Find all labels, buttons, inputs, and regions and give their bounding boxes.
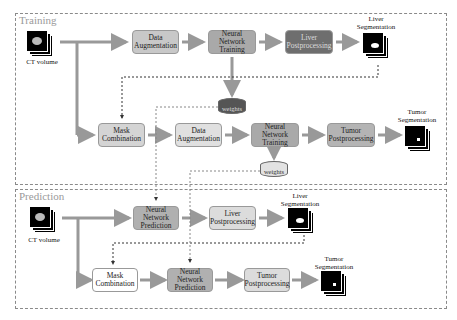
tumor-postprocessing-box-pred: TumorPostprocessing bbox=[244, 268, 290, 292]
nn-prediction-box: Neural NetworkPrediction bbox=[133, 206, 179, 230]
nn-prediction-box-2: Neural NetworkPrediction bbox=[167, 268, 213, 292]
tumor-segmentation-icon bbox=[404, 125, 430, 151]
weights-cylinder-1: weights bbox=[218, 98, 246, 114]
liver-segmentation-label-pred: LiverSegmentation bbox=[276, 192, 324, 208]
liver-segmentation-icon-pred bbox=[287, 207, 313, 233]
data-augmentation-box: DataAugmentation bbox=[132, 30, 179, 54]
ct-volume-label-pred: CT volume bbox=[24, 236, 64, 244]
liver-postprocessing-box-pred: LiverPostprocessing bbox=[209, 206, 256, 230]
ct-volume-icon-pred bbox=[29, 206, 55, 232]
liver-segmentation-label: LiverSegmentation bbox=[352, 15, 400, 31]
tumor-postprocessing-box: TumorPostprocessing bbox=[327, 123, 375, 147]
ct-volume-label: CT volume bbox=[22, 58, 62, 66]
nn-training-box-2: Neural NetworkTraining bbox=[251, 123, 299, 147]
nn-training-box: Neural NetworkTraining bbox=[208, 30, 256, 54]
liver-segmentation-icon bbox=[362, 32, 388, 58]
tumor-segmentation-label-pred: TumorSegmentation bbox=[310, 255, 358, 271]
tumor-segmentation-label: TumorSegmentation bbox=[393, 108, 441, 124]
data-augmentation-box-2: DataAugmentation bbox=[175, 123, 222, 147]
mask-combination-box-pred: MaskCombination bbox=[92, 268, 138, 292]
tumor-segmentation-icon-pred bbox=[320, 270, 346, 296]
ct-volume-icon bbox=[26, 30, 52, 56]
liver-postprocessing-box: LiverPostprocessing bbox=[285, 30, 333, 54]
weights-cylinder-2: weights bbox=[260, 161, 288, 177]
mask-combination-box: MaskCombination bbox=[98, 123, 145, 147]
